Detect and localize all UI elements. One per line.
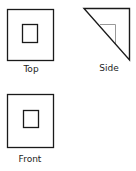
front-view-outer-square <box>8 95 54 148</box>
orthographic-views-diagram <box>0 0 136 171</box>
front-view-label: Front <box>10 154 50 164</box>
top-view-label: Top <box>11 64 51 74</box>
side-view <box>84 9 130 61</box>
side-view-label: Side <box>89 63 129 73</box>
front-view <box>8 95 54 148</box>
top-view-outer-square <box>8 10 54 61</box>
front-view-inner-square <box>24 111 39 128</box>
top-view <box>8 10 54 61</box>
top-view-inner-square <box>23 25 38 43</box>
side-view-triangle <box>84 9 130 61</box>
